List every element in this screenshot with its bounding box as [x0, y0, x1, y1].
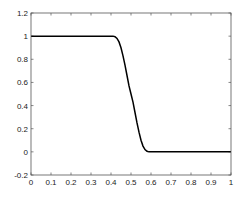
x-tick-label: 0.9	[205, 178, 217, 187]
x-axis: 00.10.20.30.40.50.60.70.80.91	[29, 13, 234, 187]
chart: 00.10.20.30.40.50.60.70.80.91 -0.200.20.…	[0, 0, 246, 200]
y-tick-label: 0.6	[17, 78, 29, 87]
x-tick-label: 0.7	[165, 178, 177, 187]
x-tick-label: 0.5	[125, 178, 137, 187]
y-tick-label: -0.2	[14, 171, 28, 180]
x-tick-label: 0.4	[105, 178, 117, 187]
x-tick-label: 0.6	[145, 178, 157, 187]
y-tick-label: 0.8	[17, 55, 29, 64]
data-line	[31, 36, 231, 152]
x-tick-label: 0.2	[65, 178, 77, 187]
x-tick-label: 0.3	[85, 178, 97, 187]
y-axis: -0.200.20.40.60.811.2	[14, 9, 231, 180]
y-tick-label: 1.2	[17, 9, 29, 18]
y-tick-label: 1	[24, 32, 29, 41]
x-tick-label: 0.1	[45, 178, 57, 187]
y-tick-label: 0.2	[17, 125, 29, 134]
y-tick-label: 0	[24, 148, 29, 157]
x-tick-label: 0	[29, 178, 34, 187]
y-tick-label: 0.4	[17, 102, 29, 111]
x-tick-label: 1	[229, 178, 234, 187]
x-tick-label: 0.8	[185, 178, 197, 187]
